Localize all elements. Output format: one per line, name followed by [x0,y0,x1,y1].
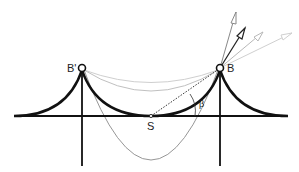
anchor-b [217,65,224,72]
label-s: S [147,121,154,132]
label-beta: β [199,100,204,109]
gray-arrow [220,12,236,68]
point-s [149,114,152,117]
cusp-left-outer [14,70,82,116]
cusp-right-outer [220,70,288,116]
label-b-prime: B' [67,63,76,74]
cusp-left-inner [82,70,151,116]
label-b: B [227,63,234,74]
light-curve-lower [84,70,218,91]
diagram-canvas [0,0,299,172]
anchor-b-prime [79,65,86,72]
